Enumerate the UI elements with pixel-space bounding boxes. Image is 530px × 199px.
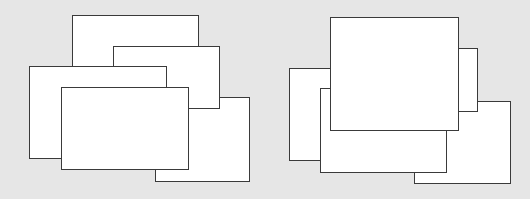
window-rect-e	[61, 87, 189, 170]
window-rect-t	[330, 17, 459, 131]
